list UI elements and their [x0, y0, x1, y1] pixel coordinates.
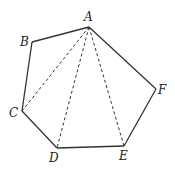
edge-cd — [22, 111, 57, 148]
diagonal-ae — [89, 27, 124, 146]
vertex-labels: ABCDEF — [9, 10, 167, 165]
hexagon-diagram: ABCDEF — [0, 0, 175, 181]
edge-ab — [32, 27, 89, 42]
edge-de — [57, 146, 124, 148]
vertex-label-d: D — [48, 151, 59, 165]
vertex-label-b: B — [19, 35, 29, 49]
vertex-label-a: A — [83, 10, 93, 24]
edge-ef — [124, 89, 156, 146]
diagonal-ad — [57, 27, 89, 148]
hexagon-edges — [22, 27, 156, 148]
vertex-label-f: F — [157, 83, 167, 97]
vertex-label-c: C — [9, 106, 18, 120]
vertex-label-e: E — [118, 149, 128, 163]
diagonal-ac — [22, 27, 89, 111]
edge-fa — [89, 27, 156, 89]
